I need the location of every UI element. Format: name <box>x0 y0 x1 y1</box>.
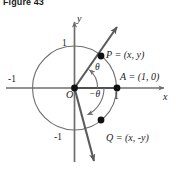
angle-label-theta: θ <box>95 63 100 73</box>
point-label-A: A = (1, 0) <box>120 72 159 82</box>
angle-label-negative-theta: −θ <box>89 90 100 100</box>
y-axis-tick-negative-one: -1 <box>54 133 62 143</box>
unit-circle-diagram <box>0 0 176 170</box>
angle-arc-theta <box>90 70 98 88</box>
y-axis-tick-positive-one: 1 <box>62 39 67 49</box>
figure-container: Figure 43 P = (x, y) <box>0 0 176 170</box>
y-axis-label: y <box>77 14 81 24</box>
x-axis-tick-negative-one: -1 <box>8 75 16 85</box>
x-axis-label: x <box>163 92 167 102</box>
point-label-Q: Q = (x, -y) <box>106 133 149 143</box>
point-P <box>98 53 105 60</box>
point-label-O: O <box>66 90 73 100</box>
point-label-P: P = (x, y) <box>106 50 144 60</box>
point-Q <box>98 117 105 124</box>
x-axis-tick-positive-one: 1 <box>114 92 119 102</box>
